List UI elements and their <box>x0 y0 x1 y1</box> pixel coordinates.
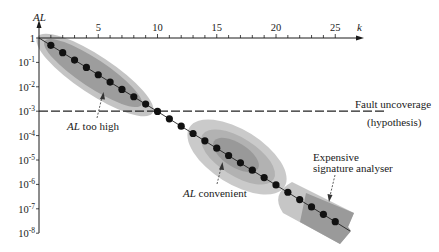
data-point <box>95 71 102 78</box>
data-point <box>320 211 327 218</box>
data-point <box>107 78 114 85</box>
x-axis-arrow-icon <box>356 36 364 41</box>
x-axis-label: k <box>357 21 363 33</box>
convenient-label: AL convenient <box>182 187 247 199</box>
data-point <box>213 145 220 152</box>
expensive-label-line2: signature analyser <box>313 162 393 174</box>
y-tick-label: 10-4 <box>18 129 35 142</box>
region-too-high-inner <box>37 29 149 116</box>
y-tick-label: 10-2 <box>18 80 35 93</box>
convenient-label-text: convenient <box>196 187 247 199</box>
y-tick-label: 10-5 <box>18 153 35 166</box>
y-tick-label: 10-3 <box>18 104 35 117</box>
x-tick-label: 25 <box>330 22 341 33</box>
data-point <box>308 203 315 210</box>
data-point <box>178 123 185 130</box>
y-tick-label: 10-7 <box>18 202 35 215</box>
x-tick-label: 15 <box>212 22 223 33</box>
y-tick-label: 10-1 <box>18 55 35 68</box>
chart-canvas: 510152025 110-110-210-310-410-510-610-71… <box>0 0 439 252</box>
data-point <box>130 93 137 100</box>
x-tick-label: 20 <box>271 22 282 33</box>
data-point <box>261 174 268 181</box>
data-point <box>332 218 339 225</box>
y-tick-label: 10-8 <box>18 226 35 239</box>
too-high-arrow <box>97 97 102 118</box>
data-point <box>189 130 196 137</box>
x-tick-label: 5 <box>96 22 101 33</box>
data-point <box>154 108 161 115</box>
data-point <box>284 189 291 196</box>
data-point <box>83 64 90 71</box>
data-point <box>237 159 244 166</box>
y-axis-label: AL <box>32 11 46 23</box>
aliasing-chart: 510152025 110-110-210-310-410-510-610-71… <box>0 0 439 252</box>
y-tick-label: 10-6 <box>18 177 35 190</box>
data-point <box>166 115 173 122</box>
x-tick-label: 10 <box>152 22 163 33</box>
convenient-label-al: AL <box>182 187 196 199</box>
too-high-label-text: too high <box>80 120 120 132</box>
y-ticks: 110-110-210-310-410-510-610-710-8 <box>18 33 39 239</box>
data-point <box>142 101 149 108</box>
expensive-arrow <box>330 175 335 196</box>
threshold-sublabel: (hypothesis) <box>367 116 422 129</box>
data-point <box>225 152 232 159</box>
data-point <box>59 49 66 56</box>
data-point <box>71 56 78 63</box>
threshold-label: Fault uncoverage <box>355 98 431 110</box>
y-tick-label: 1 <box>30 33 35 44</box>
data-point <box>249 167 256 174</box>
data-point <box>201 137 208 144</box>
x-ticks: 510152025 <box>51 22 341 38</box>
too-high-label-al: AL <box>66 120 80 132</box>
data-point <box>296 196 303 203</box>
data-point <box>272 181 279 188</box>
data-point <box>47 42 54 49</box>
data-point <box>118 86 125 93</box>
too-high-label: AL too high <box>66 120 119 132</box>
